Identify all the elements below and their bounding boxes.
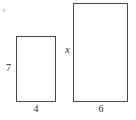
small-rectangle-width-label: 4: [30, 104, 42, 114]
small-rectangle-height-label: 7: [3, 63, 14, 73]
large-rectangle-height-label: x: [62, 45, 73, 55]
large-rectangle: [73, 3, 128, 102]
small-rectangle: [16, 36, 56, 102]
geometry-figure: 7 4 x 6: [0, 0, 136, 120]
scan-speck: [3, 9, 5, 12]
large-rectangle-width-label: 6: [95, 104, 107, 114]
